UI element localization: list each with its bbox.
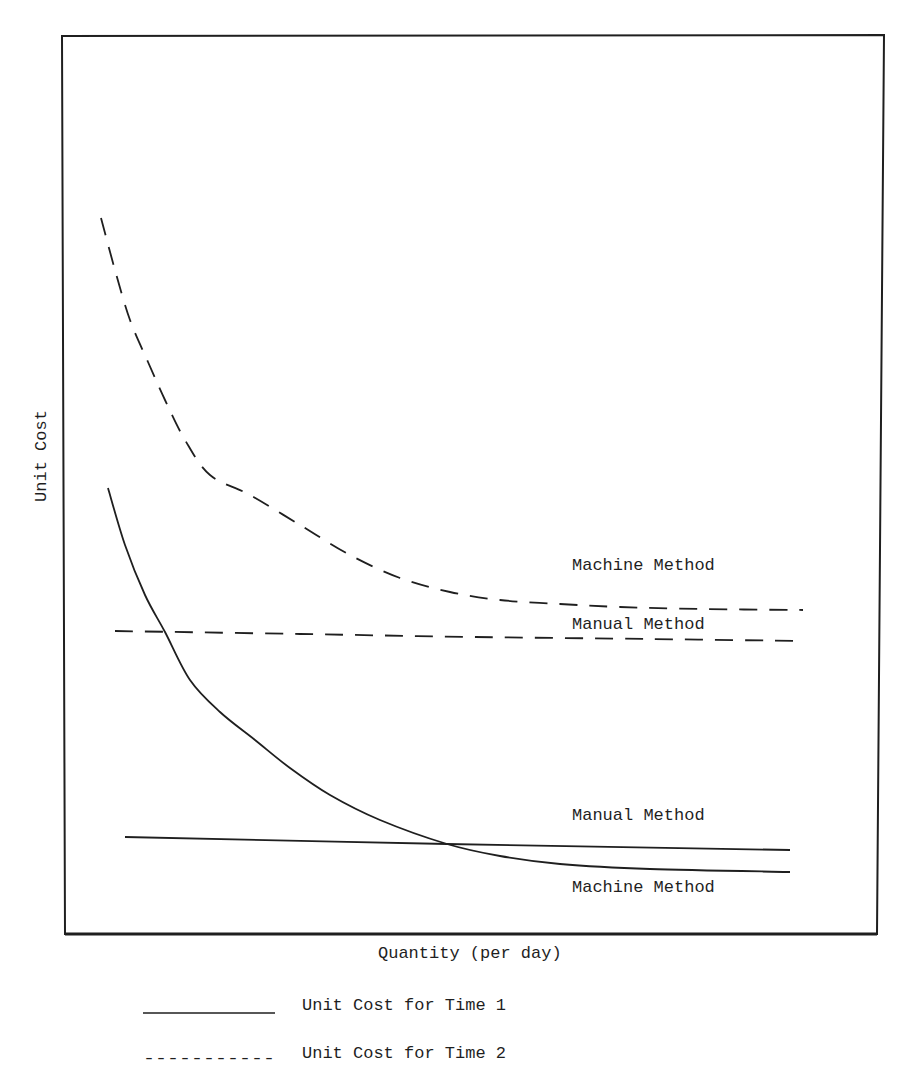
series-line-3 <box>125 837 790 850</box>
x-axis-label: Quantity (per day) <box>378 944 562 963</box>
legend: Unit Cost for Time 1 ----------- Unit Co… <box>143 996 506 1068</box>
series-line-0 <box>101 218 803 610</box>
annotation-machine-time2: Machine Method <box>572 556 715 575</box>
legend-swatch-dashed: ----------- <box>143 1049 275 1068</box>
series-layer <box>101 218 803 872</box>
chart: Unit Cost Machine Method Manual Method M… <box>0 0 901 1075</box>
legend-label-time1: Unit Cost for Time 1 <box>302 996 506 1015</box>
annotation-machine-time1: Machine Method <box>572 878 715 897</box>
y-axis-label: Unit Cost <box>32 410 51 502</box>
legend-label-time2: Unit Cost for Time 2 <box>302 1044 506 1063</box>
annotation-manual-time2: Manual Method <box>572 615 705 634</box>
plot-frame <box>62 35 884 934</box>
annotation-manual-time1: Manual Method <box>572 806 705 825</box>
